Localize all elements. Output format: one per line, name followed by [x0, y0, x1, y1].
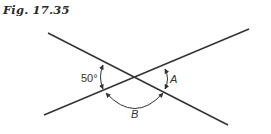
angle-A-label: A	[169, 73, 177, 85]
angle-A-arc	[165, 69, 168, 89]
angle-50-label: 50°	[81, 72, 98, 84]
angle-B-label: B	[131, 108, 138, 120]
angle-B-arc	[106, 93, 163, 109]
angle-50-arc	[101, 65, 104, 89]
angle-diagram: 50° A B	[0, 0, 271, 134]
line-2	[44, 29, 249, 115]
